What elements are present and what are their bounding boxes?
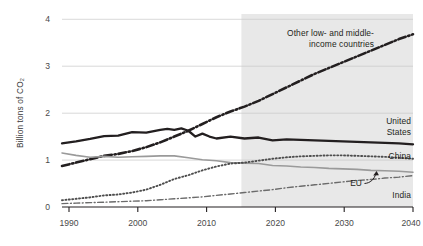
annotation-india: India (392, 190, 411, 200)
y-axis-title: Billion tons of CO₂ (16, 78, 25, 148)
xtick-label-2010: 2010 (197, 218, 216, 228)
ytick-label-3: 3 (45, 61, 50, 71)
xtick-label-1990: 1990 (59, 218, 78, 228)
annotation-united-states-line2: States (387, 127, 411, 137)
ytick-label-4: 4 (45, 14, 50, 24)
ytick-label-0: 0 (45, 202, 50, 212)
ytick-label-1: 1 (45, 155, 50, 165)
xtick-label-2020: 2020 (266, 218, 285, 228)
annotation-eu: EU (350, 178, 362, 188)
annotation-china: China (389, 151, 412, 161)
annotation-united-states-line1: United (386, 116, 411, 126)
ytick-label-2: 2 (45, 108, 50, 118)
xtick-label-2040: 2040 (401, 218, 420, 228)
xtick-label-2000: 2000 (128, 218, 147, 228)
emissions-line-chart: 4 3 2 1 0 Billion tons of CO₂ 1990 2000 … (0, 0, 423, 246)
xtick-label-2030: 2030 (335, 218, 354, 228)
annotation-other-low-middle-line2: income countries (309, 39, 374, 49)
chart-svg: 4 3 2 1 0 Billion tons of CO₂ 1990 2000 … (0, 0, 423, 246)
annotation-other-low-middle-line1: Other low- and middle- (287, 28, 374, 38)
